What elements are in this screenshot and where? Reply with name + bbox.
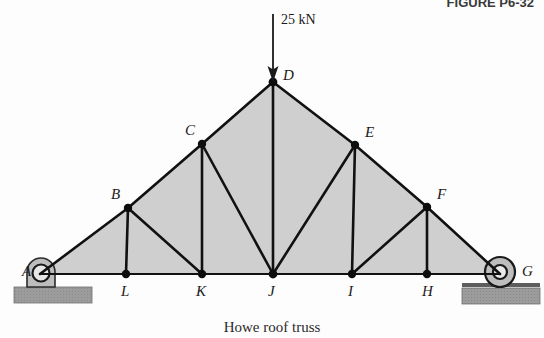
node-label-F: F (436, 186, 447, 202)
node-label-A: A (21, 263, 32, 279)
node-label-H: H (421, 283, 434, 299)
figure-caption: Howe roof truss (224, 319, 321, 335)
node-label-K: K (195, 283, 207, 299)
joint-E (351, 141, 359, 149)
node-label-J: J (268, 283, 276, 299)
load-arrow-group (268, 14, 279, 82)
node-label-I: I (347, 283, 354, 299)
node-label-D: D (282, 67, 294, 83)
node-label-G: G (522, 263, 533, 279)
joint-C (198, 140, 206, 148)
joint-K (198, 270, 206, 278)
node-label-C: C (185, 122, 196, 138)
truss-figure: 25 kN A B C D E F G H I J K L Howe roof … (0, 0, 544, 338)
joint-B (124, 204, 132, 212)
roller-inner-hub (493, 265, 507, 279)
joint-L (122, 270, 130, 278)
right-foundation-block (462, 288, 540, 304)
joint-F (423, 203, 431, 211)
node-label-B: B (111, 186, 120, 202)
load-label: 25 kN (281, 12, 316, 27)
truss-shaded-panels (40, 82, 500, 274)
support-foundations (14, 283, 540, 304)
joint-J (269, 270, 278, 279)
figure-id-label: FIGURE P6-32 (447, 0, 534, 10)
roller-support-icon (485, 257, 515, 287)
node-label-L: L (120, 283, 129, 299)
left-foundation-block (14, 287, 92, 303)
joint-I (348, 270, 356, 278)
truss-diagram: 25 kN A B C D E F G H I J K L Howe roof … (0, 0, 544, 338)
node-label-E: E (364, 124, 374, 140)
joint-H (423, 270, 431, 278)
